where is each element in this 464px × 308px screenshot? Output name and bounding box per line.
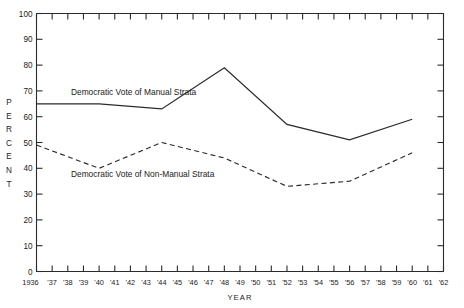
x-tick-label: '54 <box>313 278 323 287</box>
x-tick-label: '56 <box>345 278 355 287</box>
x-tick-label: '47 <box>204 278 214 287</box>
y-axis-title-letter: E <box>6 112 12 121</box>
x-tick-label: '53 <box>298 278 308 287</box>
x-tick-label: '43 <box>141 278 151 287</box>
y-tick-label: 10 <box>23 242 33 251</box>
x-tick-label: '51 <box>266 278 276 287</box>
x-tick-label: '57 <box>360 278 370 287</box>
series-annotation-2: Democratic Vote of Non-Manual Strata <box>71 169 215 179</box>
x-tick-label: '38 <box>63 278 73 287</box>
x-tick-label: '58 <box>376 278 386 287</box>
y-tick-label: 30 <box>23 190 33 199</box>
y-tick-label: 0 <box>28 268 33 277</box>
x-tick-label: '37 <box>47 278 57 287</box>
y-axis-title-letter: E <box>6 152 12 161</box>
series-line-1 <box>37 68 413 140</box>
line-chart: 01020304050607080901001936'37'38'39'40'4… <box>0 0 464 308</box>
y-axis-title-letter: T <box>6 180 11 189</box>
axis-left-bottom <box>37 14 444 272</box>
x-tick-label: '52 <box>282 278 292 287</box>
series-line-2 <box>37 143 413 187</box>
x-tick-label: '41 <box>110 278 120 287</box>
y-axis-title-letter: N <box>6 166 12 175</box>
x-tick-label: '45 <box>173 278 183 287</box>
x-tick-label: '60 <box>407 278 417 287</box>
x-tick-label: '55 <box>329 278 339 287</box>
x-tick-label: '42 <box>126 278 136 287</box>
x-axis-title: YEAR <box>227 293 252 302</box>
series-annotation-1: Democratic Vote of Manual Strata <box>71 87 197 97</box>
x-tick-label: '46 <box>188 278 198 287</box>
y-tick-label: 100 <box>19 10 33 19</box>
x-tick-label: '49 <box>235 278 245 287</box>
axis-top-right <box>37 14 444 272</box>
x-tick-label: '39 <box>79 278 89 287</box>
y-tick-label: 60 <box>23 113 33 122</box>
x-tick-label: '40 <box>94 278 104 287</box>
y-axis-title-letter: C <box>6 139 12 148</box>
y-tick-label: 50 <box>23 139 33 148</box>
y-axis-title-letter: R <box>6 125 12 134</box>
y-axis-title-letter: P <box>6 98 12 107</box>
y-tick-label: 40 <box>23 164 33 173</box>
x-tick-label: '48 <box>220 278 230 287</box>
chart-container: 01020304050607080901001936'37'38'39'40'4… <box>0 0 464 308</box>
x-tick-label: '59 <box>392 278 402 287</box>
x-tick-label: '44 <box>157 278 167 287</box>
y-tick-label: 20 <box>23 216 33 225</box>
x-tick-label: '62 <box>439 278 449 287</box>
y-tick-label: 90 <box>23 35 33 44</box>
y-tick-label: 70 <box>23 87 33 96</box>
x-tick-label: '61 <box>423 278 433 287</box>
x-tick-label: '50 <box>251 278 261 287</box>
x-tick-label: 1936 <box>22 278 38 287</box>
y-tick-label: 80 <box>23 61 33 70</box>
